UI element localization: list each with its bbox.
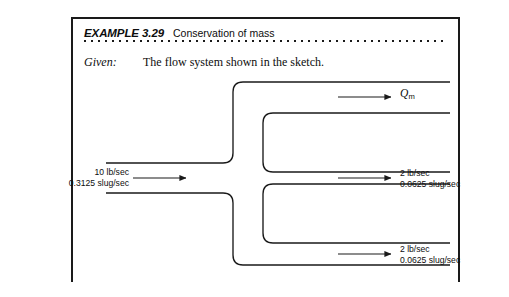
pipe-wall-top-branch-inner [263,113,450,172]
pipe-wall-outer-lower [106,193,450,265]
middle-outlet-weight-rate: 2 lb/sec [400,168,505,179]
inlet-flow-mass-rate: 0.3125 slug/sec [22,178,129,189]
bottom-outlet-weight-rate: 2 lb/sec [400,244,505,255]
top-outlet-subscript: m [409,92,415,101]
inlet-flow-weight-rate: 10 lb/sec [22,167,129,178]
bottom-outlet-flow-label: 2 lb/sec 0.0625 slug/sec [400,244,505,266]
pipe-wall-bottom-branch-inner [263,184,450,243]
pipe-walls [106,82,450,265]
bottom-outlet-mass-rate: 0.0625 slug/sec [400,255,505,266]
top-outlet-flow-label: Qm [400,87,415,99]
inlet-flow-label: 10 lb/sec 0.3125 slug/sec [22,167,129,189]
middle-outlet-mass-rate: 0.0625 slug/sec [400,179,505,190]
pipe-wall-outer-upper [106,82,450,163]
flow-direction-arrows [133,97,391,254]
top-outlet-symbol: Q [400,87,408,99]
example-figure-page: EXAMPLE 3.29Conservation of mass Given: … [0,0,509,297]
middle-outlet-flow-label: 2 lb/sec 0.0625 slug/sec [400,168,505,190]
